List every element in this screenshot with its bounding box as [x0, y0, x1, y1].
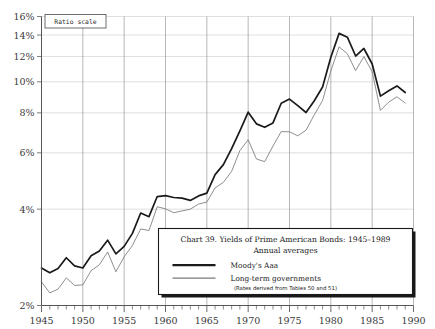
- y-tick-label: 10%: [13, 76, 34, 87]
- chart-legend: Chart 39. Yields of Prime American Bonds…: [159, 229, 416, 298]
- legend-title: Chart 39. Yields of Prime American Bonds…: [181, 235, 391, 244]
- y-tick-label: 14%: [13, 30, 34, 41]
- y-tick-label: 6%: [19, 147, 34, 158]
- x-tick-label: 1945: [29, 315, 53, 326]
- ratio-scale-label: Ratio scale: [54, 18, 96, 26]
- x-tick-label: 1955: [112, 315, 136, 326]
- legend-subtitle: Annual averages: [252, 246, 317, 255]
- y-tick-label: 12%: [13, 51, 34, 62]
- y-tick-label: 8%: [19, 107, 34, 118]
- legend-source-note: (Rates derived from Tables 50 and 51): [234, 285, 337, 291]
- x-tick-label: 1980: [319, 315, 343, 326]
- y-tick-label: 2%: [19, 300, 34, 311]
- yields-line-chart: 2%4%6%8%10%12%14%16% 1945195019551960196…: [0, 0, 435, 329]
- x-tick-label: 1965: [195, 315, 219, 326]
- x-tick-label: 1975: [277, 315, 301, 326]
- ratio-scale-box: Ratio scale: [45, 15, 106, 29]
- x-tick-label: 1970: [236, 315, 260, 326]
- x-tick-label: 1950: [71, 315, 95, 326]
- x-tick-label: 1990: [401, 315, 425, 326]
- x-tick-label: 1985: [360, 315, 384, 326]
- chart-container: 2%4%6%8%10%12%14%16% 1945195019551960196…: [0, 0, 435, 329]
- x-tick-label: 1960: [153, 315, 177, 326]
- legend-label-moodys-aaa: Moody's Aaa: [231, 261, 279, 270]
- legend-label-long-term-governments: Long-term governments: [231, 274, 322, 283]
- y-tick-label: 16%: [13, 11, 34, 22]
- y-tick-label: 4%: [19, 204, 34, 215]
